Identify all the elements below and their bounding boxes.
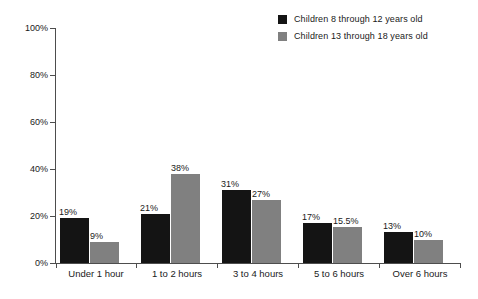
bar-value-label: 21%	[140, 203, 158, 214]
bar-value-label: 9%	[90, 231, 103, 242]
x-axis-label-under-1-hour: Under 1 hour	[56, 268, 136, 280]
x-axis-label-5-to-6-hours: 5 to 6 hours	[299, 268, 379, 280]
bar-children-8-12-1-to-2-hours[interactable]: 21%	[141, 214, 170, 263]
plot-area: 19% 9% 21% 38% 31% 27% 17%	[55, 28, 460, 263]
bar-value-label: 15.5%	[333, 216, 359, 227]
legend-swatch-black-icon	[278, 15, 287, 24]
legend-item-children-8-12: Children 8 through 12 years old	[278, 12, 428, 26]
bar-chart: Children 8 through 12 years old Children…	[0, 0, 478, 299]
x-axis-label-3-to-4-hours: 3 to 4 hours	[218, 268, 298, 280]
y-tick-100: 100%	[0, 24, 48, 33]
legend-label-children-8-12: Children 8 through 12 years old	[294, 14, 423, 24]
bar-group-under-1-hour: 19% 9%	[60, 28, 119, 263]
bar-value-label: 17%	[302, 212, 320, 223]
bar-value-label: 27%	[252, 189, 270, 200]
bar-children-13-18-under-1-hour[interactable]: 9%	[90, 242, 119, 263]
bar-children-8-12-5-to-6-hours[interactable]: 17%	[303, 223, 332, 263]
bar-group-1-to-2-hours: 21% 38%	[141, 28, 200, 263]
bar-value-label: 10%	[414, 229, 432, 240]
bar-children-8-12-3-to-4-hours[interactable]: 31%	[222, 190, 251, 263]
bar-children-8-12-under-1-hour[interactable]: 19%	[60, 218, 89, 263]
bar-children-13-18-1-to-2-hours[interactable]: 38%	[171, 174, 200, 263]
x-axis-label-over-6-hours: Over 6 hours	[380, 268, 460, 280]
y-tick-60: 60%	[0, 118, 48, 127]
x-axis-line	[55, 263, 461, 264]
bar-value-label: 38%	[171, 163, 189, 174]
bar-value-label: 19%	[59, 207, 77, 218]
y-tick-80: 80%	[0, 71, 48, 80]
y-tick-mark-0	[50, 263, 55, 264]
y-tick-0: 0%	[0, 259, 48, 268]
bar-children-8-12-over-6-hours[interactable]: 13%	[384, 232, 413, 263]
y-tick-40: 40%	[0, 165, 48, 174]
bar-group-3-to-4-hours: 31% 27%	[222, 28, 281, 263]
bar-group-over-6-hours: 13% 10%	[384, 28, 443, 263]
bar-value-label: 31%	[221, 179, 239, 190]
y-tick-20: 20%	[0, 212, 48, 221]
x-tick-mark-5	[460, 264, 461, 268]
bar-children-13-18-3-to-4-hours[interactable]: 27%	[252, 200, 281, 263]
x-axis-label-1-to-2-hours: 1 to 2 hours	[137, 268, 217, 280]
bar-value-label: 13%	[383, 221, 401, 232]
bar-children-13-18-over-6-hours[interactable]: 10%	[414, 240, 443, 264]
bar-group-5-to-6-hours: 17% 15.5%	[303, 28, 362, 263]
bar-children-13-18-5-to-6-hours[interactable]: 15.5%	[333, 227, 362, 263]
